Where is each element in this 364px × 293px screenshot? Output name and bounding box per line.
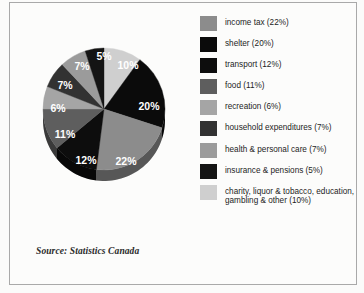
legend: income tax (22%)shelter (20%)transport (…: [200, 16, 360, 206]
pie-slice-label: 20%: [138, 100, 160, 112]
legend-swatch: [200, 37, 217, 52]
legend-item[interactable]: health & personal care (7%): [200, 143, 360, 158]
legend-item[interactable]: transport (12%): [200, 58, 360, 73]
legend-label: transport (12%): [225, 58, 281, 70]
legend-item[interactable]: household expenditures (7%): [200, 121, 360, 136]
pie-slice-label: 22%: [115, 155, 137, 167]
legend-label: household expenditures (7%): [225, 121, 332, 133]
figure-container: 10%20%22%12%11%6%7%7%5% Source: Statisti…: [0, 0, 364, 293]
pie-slice-label: 7%: [74, 60, 90, 72]
pie-chart-svg: 10%20%22%12%11%6%7%7%5%: [24, 19, 184, 191]
pie-slice-label: 11%: [55, 128, 76, 140]
legend-swatch: [200, 121, 217, 136]
figure-frame: 10%20%22%12%11%6%7%7%5% Source: Statisti…: [9, 2, 357, 285]
source-attribution: Source: Statistics Canada: [36, 246, 139, 256]
legend-swatch: [200, 143, 217, 158]
pie-slice-label: 12%: [75, 154, 97, 166]
legend-item[interactable]: recreation (6%): [200, 100, 360, 115]
pie-slice-label: 6%: [50, 102, 66, 114]
legend-swatch: [200, 164, 217, 179]
legend-swatch: [200, 100, 217, 115]
legend-label: food (11%): [225, 79, 264, 91]
legend-item[interactable]: shelter (20%): [200, 37, 360, 52]
pie-slice-label: 7%: [57, 79, 73, 91]
legend-label: shelter (20%): [225, 37, 274, 49]
legend-label: income tax (22%): [225, 16, 289, 28]
pie-chart: 10%20%22%12%11%6%7%7%5%: [24, 19, 184, 191]
legend-label: insurance & pensions (5%): [225, 164, 323, 176]
legend-label: recreation (6%): [225, 100, 281, 112]
legend-swatch: [200, 16, 217, 31]
pie-slice-label: 10%: [117, 59, 139, 71]
legend-label: health & personal care (7%): [225, 143, 327, 155]
legend-swatch: [200, 58, 217, 73]
legend-swatch: [200, 79, 217, 94]
legend-item[interactable]: food (11%): [200, 79, 360, 94]
legend-swatch: [200, 185, 217, 200]
pie-slice-label: 5%: [96, 50, 112, 62]
legend-label: charity, liquor & tobacco, education, ga…: [225, 185, 360, 206]
legend-item[interactable]: insurance & pensions (5%): [200, 164, 360, 179]
legend-item[interactable]: charity, liquor & tobacco, education, ga…: [200, 185, 360, 206]
legend-item[interactable]: income tax (22%): [200, 16, 360, 31]
